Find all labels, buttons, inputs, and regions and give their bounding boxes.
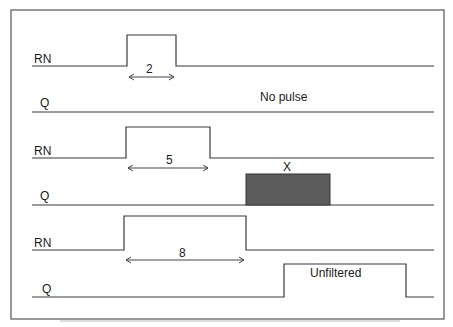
diagram-frame (11, 10, 444, 319)
rn-waveform (32, 216, 434, 250)
signal-label-q: Q (42, 282, 51, 296)
signal-label-q: Q (40, 189, 49, 203)
row-q-3: Q Unfiltered (32, 264, 434, 297)
pulse-width-label: 2 (146, 62, 153, 76)
signal-label-rn: RN (34, 52, 51, 66)
signal-label-rn: RN (34, 144, 51, 158)
pulse-width-label: 8 (179, 246, 186, 260)
rn-waveform (32, 127, 434, 158)
rn-waveform (32, 35, 434, 66)
row-rn-2: RN 5 (32, 127, 434, 171)
pulse-width-label: 5 (166, 153, 173, 167)
q-waveform (32, 264, 434, 297)
timing-diagram: RN 2 Q No pulse RN 5 Q X RN 8 Q (0, 0, 453, 327)
row-q-1: Q No pulse (32, 90, 434, 112)
annotation-unfiltered: Unfiltered (310, 266, 361, 280)
annotation-unknown-x: X (283, 160, 291, 174)
annotation-no-pulse: No pulse (260, 90, 308, 104)
row-rn-1: RN 2 (32, 35, 434, 80)
signal-label-q: Q (40, 96, 49, 110)
signal-label-rn: RN (34, 236, 51, 250)
row-rn-3: RN 8 (32, 216, 434, 263)
unknown-state-block (246, 174, 330, 205)
row-q-2: Q X (32, 160, 434, 205)
